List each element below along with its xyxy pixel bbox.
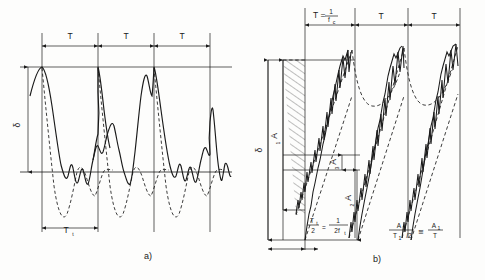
panel-b-formula-right-approx: ≅ xyxy=(418,228,424,235)
panel-b-period-label-3: T xyxy=(431,11,436,21)
panel-a-period-label-1: T xyxy=(67,31,72,41)
panel-b-formula-right-rnum: A xyxy=(432,222,437,229)
panel-b-delta-label: δ xyxy=(254,147,264,152)
panel-b-formula-left-equals: = xyxy=(322,224,326,231)
panel-b-period-formula-denominator: f xyxy=(328,16,330,23)
panel-a-delta-label: δ xyxy=(12,122,22,127)
panel-b-caption: b) xyxy=(373,254,381,264)
panel-b-formula-left-frac2-num: 1 xyxy=(336,217,340,224)
panel-a-caption: a) xyxy=(144,251,152,261)
panel-a-period-label-2: T xyxy=(123,31,128,41)
panel-b-a2-sub: 2 xyxy=(349,203,355,206)
panel-b-a3-sub: 3 xyxy=(334,166,340,169)
technical-figure: T T T δ T t xyxy=(0,0,485,280)
panel-a-tooth-period-label: T xyxy=(63,225,68,235)
panel-b-a1-sub: 1 xyxy=(275,141,281,144)
panel-b-formula-left-frac2-den: 2f xyxy=(334,227,340,234)
panel-b-formula-left-num: T xyxy=(310,217,314,224)
panel-b-formula-right-den-tail: /2 xyxy=(406,232,412,239)
panel-b-formula-right-num: A xyxy=(397,222,402,229)
panel-b-a3-label: A xyxy=(328,159,338,165)
panel-b-period-formula-denominator-sub: c xyxy=(333,19,336,25)
panel-a-period-label-3: T xyxy=(179,31,184,41)
panel-b-formula-right-rden: T xyxy=(433,232,437,239)
panel-b-period-formula-numerator: 1 xyxy=(329,8,333,15)
panel-b-period-label-2: T xyxy=(378,11,383,21)
panel-b-period-formula-lead: T = xyxy=(313,10,325,20)
figure-background xyxy=(0,0,485,280)
panel-b-formula-right-den: T xyxy=(393,232,397,239)
panel-b-a2-label: A xyxy=(343,195,353,201)
panel-b-formula-left-den: 2 xyxy=(311,227,315,234)
panel-b-a1-label: A xyxy=(269,133,279,139)
panel-b-formula-right-den-sub: 1 xyxy=(399,235,402,241)
